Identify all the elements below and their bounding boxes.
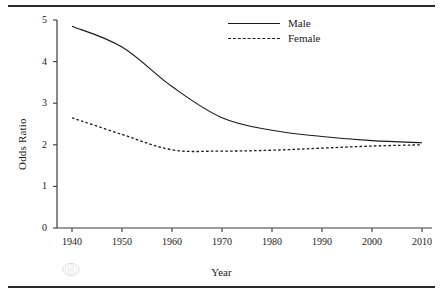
y-axis-tick-label: 0 [33, 222, 47, 233]
legend-item-label: Female [288, 31, 320, 46]
legend-item-female: Female [228, 31, 378, 46]
chart-legend: MaleFemale [228, 16, 378, 46]
y-axis-tick-label: 3 [33, 97, 47, 108]
x-axis-tick-label: 1970 [205, 236, 239, 247]
series-line-female [72, 118, 422, 152]
x-axis-tick-label: 1990 [305, 236, 339, 247]
legend-item-label: Male [288, 16, 311, 31]
y-axis-tick-label: 1 [33, 180, 47, 191]
circled-glyph-watermark-icon [61, 262, 81, 277]
y-axis-title: Odds Ratio [16, 118, 28, 170]
y-axis-tick-label: 2 [33, 139, 47, 150]
x-axis-tick-label: 1950 [105, 236, 139, 247]
x-axis-tick-label: 1940 [55, 236, 89, 247]
y-axis-tick-label: 4 [33, 56, 47, 67]
y-axis-tick-label: 5 [33, 14, 47, 25]
legend-item-male: Male [228, 16, 378, 31]
x-axis-tick-label: 1980 [255, 236, 289, 247]
dashed-line-swatch [228, 38, 280, 39]
solid-line-swatch [228, 23, 280, 24]
x-axis-tick-label: 2000 [355, 236, 389, 247]
x-axis-tick-label: 2010 [405, 236, 439, 247]
x-axis-tick-label: 1960 [155, 236, 189, 247]
x-axis-ticks [72, 228, 422, 232]
odds-ratio-line-chart: 012345 19401950196019701980199020002010 … [0, 0, 443, 294]
